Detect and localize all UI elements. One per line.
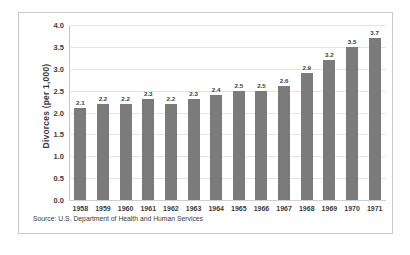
bar-value-label: 2.3 — [189, 90, 198, 97]
bar-value-label: 2.2 — [99, 95, 108, 102]
bar-value-label: 3.5 — [348, 38, 357, 45]
bar[interactable] — [142, 99, 154, 200]
bar-value-label: 2.5 — [235, 82, 244, 89]
source-note: Source: U.S. Department of Health and Hu… — [33, 215, 203, 222]
bar-group[interactable]: 2.91968 — [301, 25, 313, 200]
y-axis-title: Divorces (per 1,000) — [41, 31, 51, 181]
bar[interactable] — [301, 73, 313, 200]
x-tick-label: 1970 — [344, 205, 360, 212]
bar-value-label: 2.3 — [144, 90, 153, 97]
bar-group[interactable]: 3.21969 — [323, 25, 335, 200]
bar-value-label: 2.2 — [167, 95, 176, 102]
y-tick-label: 3.5 — [54, 42, 64, 51]
x-tick-label: 1960 — [118, 205, 134, 212]
bar-group[interactable]: 2.21959 — [97, 25, 109, 200]
x-tick-label: 1971 — [367, 205, 383, 212]
bar-series: 2.119582.219592.219602.319612.219622.319… — [69, 25, 386, 200]
bar-value-label: 2.4 — [212, 86, 221, 93]
bar-group[interactable]: 2.51966 — [255, 25, 267, 200]
y-tick-label: 1.0 — [54, 152, 64, 161]
bar[interactable] — [255, 91, 267, 200]
bar[interactable] — [120, 104, 132, 200]
bar-group[interactable]: 3.71971 — [369, 25, 381, 200]
y-tick-label: 4.0 — [54, 21, 64, 30]
x-tick-label: 1963 — [186, 205, 202, 212]
y-tick-label: 2.0 — [54, 108, 64, 117]
chart-figure: Divorces (per 1,000) 0.00.51.01.52.02.53… — [0, 0, 410, 255]
chart-card: Divorces (per 1,000) 0.00.51.01.52.02.53… — [18, 12, 393, 234]
y-tick-label: 0.5 — [54, 174, 64, 183]
bar-group[interactable]: 2.11958 — [74, 25, 86, 200]
bar[interactable] — [165, 104, 177, 200]
x-tick-label: 1959 — [95, 205, 111, 212]
x-tick-label: 1967 — [276, 205, 292, 212]
bar-group[interactable]: 3.51970 — [346, 25, 358, 200]
bar-value-label: 2.9 — [302, 64, 311, 71]
bar[interactable] — [97, 104, 109, 200]
x-tick-label: 1968 — [299, 205, 315, 212]
bar[interactable] — [369, 38, 381, 200]
bar-group[interactable]: 2.31961 — [142, 25, 154, 200]
x-tick-label: 1962 — [163, 205, 179, 212]
y-tick-label: 3.0 — [54, 64, 64, 73]
bar-group[interactable]: 2.51965 — [233, 25, 245, 200]
bar[interactable] — [210, 95, 222, 200]
x-tick-label: 1966 — [254, 205, 270, 212]
bar[interactable] — [278, 86, 290, 200]
x-tick-label: 1965 — [231, 205, 247, 212]
bar-group[interactable]: 2.31963 — [188, 25, 200, 200]
bar[interactable] — [233, 91, 245, 200]
bar-group[interactable]: 2.61967 — [278, 25, 290, 200]
bar[interactable] — [323, 60, 335, 200]
bar[interactable] — [74, 108, 86, 200]
bar[interactable] — [346, 47, 358, 200]
bar-value-label: 2.2 — [121, 95, 130, 102]
x-tick-label: 1969 — [322, 205, 338, 212]
bar-value-label: 2.1 — [76, 99, 85, 106]
bar-value-label: 3.7 — [370, 29, 379, 36]
y-tick-label: 0.0 — [54, 196, 64, 205]
bar[interactable] — [188, 99, 200, 200]
bar-group[interactable]: 2.21960 — [120, 25, 132, 200]
x-tick-label: 1961 — [140, 205, 156, 212]
bar-group[interactable]: 2.41964 — [210, 25, 222, 200]
bar-group[interactable]: 2.21962 — [165, 25, 177, 200]
x-tick-label: 1958 — [73, 205, 89, 212]
bar-value-label: 2.6 — [280, 77, 289, 84]
y-tick-label: 2.5 — [54, 86, 64, 95]
plot-area: 0.00.51.01.52.02.53.03.54.0 2.119582.219… — [69, 25, 386, 200]
x-tick-label: 1964 — [208, 205, 224, 212]
gridline — [69, 200, 386, 201]
bar-value-label: 3.2 — [325, 51, 334, 58]
bar-value-label: 2.5 — [257, 82, 266, 89]
y-tick-label: 1.5 — [54, 130, 64, 139]
